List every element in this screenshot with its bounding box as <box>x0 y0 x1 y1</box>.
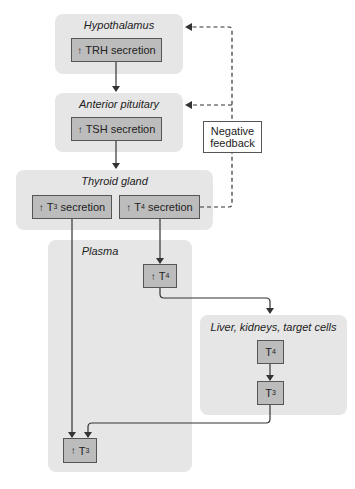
plasma-t3-base: T <box>79 445 86 457</box>
t3-base: T <box>47 201 54 213</box>
increase-arrow-icon: ↑ <box>151 271 156 282</box>
plasma-t3-node: ↑T3 <box>63 438 97 463</box>
feedback-line2: feedback <box>204 137 261 149</box>
trh-label: TRH secretion <box>85 44 155 56</box>
liver-t4-base: T <box>265 346 272 358</box>
trh-secretion-node: ↑TRH secretion <box>71 38 162 62</box>
increase-arrow-icon: ↑ <box>77 45 82 56</box>
feedback-line1: Negative <box>204 125 261 137</box>
plasma-t4-node: ↑T4 <box>143 264 177 288</box>
t4-base: T <box>134 201 141 213</box>
connector-lines <box>0 0 355 489</box>
tsh-label: TSH secretion <box>86 123 156 135</box>
increase-arrow-icon: ↑ <box>39 202 44 213</box>
tsh-secretion-node: ↑TSH secretion <box>71 117 162 141</box>
liver-t3-base: T <box>265 387 272 399</box>
increase-arrow-icon: ↑ <box>126 202 131 213</box>
t3-suffix: secretion <box>57 201 105 213</box>
t4-suffix: secretion <box>145 201 193 213</box>
negative-feedback-label: Negative feedback <box>203 121 262 153</box>
increase-arrow-icon: ↑ <box>71 445 76 456</box>
liver-t3-node: T3 <box>257 381 284 405</box>
t3-secretion-node: ↑T3 secretion <box>32 195 112 219</box>
liver-t4-node: T4 <box>257 340 284 364</box>
t4-secretion-node: ↑T4 secretion <box>119 195 200 219</box>
plasma-t4-base: T <box>159 270 166 282</box>
increase-arrow-icon: ↑ <box>78 124 83 135</box>
